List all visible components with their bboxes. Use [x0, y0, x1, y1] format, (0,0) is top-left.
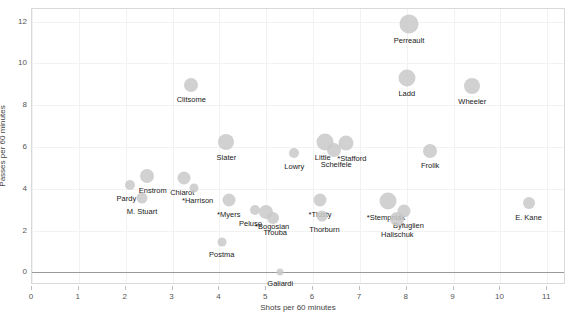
gridline-y — [32, 147, 564, 148]
plot-area: PerreaultClitsomeLaddWheelerSlaterLittle… — [31, 8, 565, 284]
gridline-y — [32, 231, 564, 232]
y-tick-label: 6 — [23, 142, 27, 151]
x-tick-label: 4 — [216, 292, 220, 301]
y-tick-label: 4 — [23, 183, 27, 192]
x-tick-label: 8 — [404, 292, 408, 301]
data-point-label: Galiardi — [267, 279, 293, 288]
gridline-x — [454, 9, 455, 283]
data-point-label: Postma — [209, 250, 234, 259]
data-point[interactable] — [464, 78, 480, 94]
y-axis-title: Passes per 60 minutes — [0, 105, 7, 186]
x-tick-mark — [453, 286, 454, 290]
x-tick-mark — [359, 286, 360, 290]
data-point-label: M. Stuart — [127, 207, 157, 216]
data-point[interactable] — [178, 172, 191, 185]
gridline-x — [360, 9, 361, 283]
x-axis-title: Shots per 60 minutes — [260, 303, 336, 312]
data-point[interactable] — [317, 211, 328, 222]
gridline-x — [173, 9, 174, 283]
data-point-label: Pardy — [117, 194, 137, 203]
data-point[interactable] — [184, 78, 198, 92]
data-point-label: Wheeler — [458, 97, 486, 106]
x-tick-label: 6 — [310, 292, 314, 301]
data-point-label: Lowry — [284, 162, 304, 171]
x-tick-label: 7 — [357, 292, 361, 301]
gridline-x — [79, 9, 80, 283]
data-point[interactable] — [523, 197, 535, 209]
data-point-label: *Stafford — [337, 154, 366, 163]
y-tick-label: 0 — [23, 267, 27, 276]
data-point[interactable] — [314, 194, 327, 207]
gridline-x — [266, 9, 267, 283]
data-point[interactable] — [189, 183, 198, 192]
data-point-label: Trouba — [263, 228, 287, 237]
x-tick-mark — [218, 286, 219, 290]
x-tick-mark — [499, 286, 500, 290]
y-tick-label: 12 — [18, 16, 27, 25]
data-point[interactable] — [277, 269, 284, 276]
x-tick-mark — [546, 286, 547, 290]
y-tick-label: 2 — [23, 225, 27, 234]
data-point[interactable] — [125, 180, 135, 190]
y-tick-label: 8 — [23, 100, 27, 109]
y-tick-label: 10 — [18, 58, 27, 67]
data-point[interactable] — [423, 144, 437, 158]
data-point-label: Slater — [217, 153, 237, 162]
data-point-label: Clitsome — [177, 95, 206, 104]
x-tick-label: 0 — [29, 292, 33, 301]
x-tick-label: 9 — [450, 292, 454, 301]
data-point[interactable] — [250, 205, 260, 215]
data-point[interactable] — [140, 169, 154, 183]
data-point-label: E. Kane — [515, 213, 542, 222]
data-point[interactable] — [398, 70, 415, 87]
x-tick-label: 1 — [76, 292, 80, 301]
data-point[interactable] — [390, 212, 404, 226]
data-point-label: Perreault — [394, 36, 424, 45]
x-tick-mark — [125, 286, 126, 290]
data-point[interactable] — [267, 212, 279, 224]
x-tick-label: 2 — [122, 292, 126, 301]
data-point-label: Halischuk — [381, 230, 414, 239]
data-point-label: *Harrison — [182, 196, 213, 205]
x-tick-label: 10 — [495, 292, 504, 301]
gridline-x — [126, 9, 127, 283]
data-point[interactable] — [137, 193, 148, 204]
data-point-label: *Myers — [217, 210, 240, 219]
x-tick-mark — [31, 286, 32, 290]
x-tick-mark — [312, 286, 313, 290]
gridline-y — [32, 22, 564, 23]
data-point[interactable] — [218, 134, 234, 150]
data-point-label: Thorburn — [309, 225, 339, 234]
data-point-label: Ladd — [398, 89, 415, 98]
x-tick-label: 11 — [542, 292, 550, 301]
gridline-y — [32, 63, 564, 64]
gridline-x — [547, 9, 548, 283]
scatter-chart: 024681012 Passes per 60 minutes Perreaul… — [0, 0, 571, 315]
data-point-label: Frolik — [421, 161, 439, 170]
data-point[interactable] — [380, 193, 397, 210]
data-point[interactable] — [222, 194, 235, 207]
gridline-y — [32, 189, 564, 190]
gridline-x — [32, 9, 33, 283]
gridline-x — [500, 9, 501, 283]
data-point[interactable] — [289, 148, 299, 158]
gridline-x — [407, 9, 408, 283]
x-tick-mark — [406, 286, 407, 290]
gridline-x — [313, 9, 314, 283]
x-tick-label: 5 — [263, 292, 267, 301]
x-tick-mark — [172, 286, 173, 290]
x-tick-mark — [78, 286, 79, 290]
data-point[interactable] — [217, 238, 226, 247]
data-point[interactable] — [338, 135, 353, 150]
x-tick-label: 3 — [169, 292, 173, 301]
zero-reference-line — [32, 272, 564, 273]
data-point[interactable] — [400, 14, 419, 33]
x-tick-mark — [265, 286, 266, 290]
